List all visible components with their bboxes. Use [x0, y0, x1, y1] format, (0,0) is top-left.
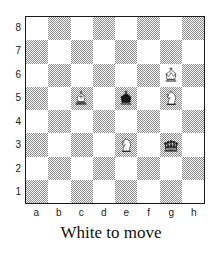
square-d3[interactable]: [93, 133, 115, 156]
square-d2[interactable]: [93, 157, 115, 180]
square-f1[interactable]: [137, 180, 159, 203]
square-b4[interactable]: [48, 110, 70, 133]
square-d6[interactable]: [93, 64, 115, 87]
square-d7[interactable]: [93, 40, 115, 63]
square-d5[interactable]: [93, 87, 115, 110]
square-f3[interactable]: [137, 133, 159, 156]
rank-labels: 8 7 6 5 4 3 2 1: [8, 16, 23, 204]
square-g8[interactable]: [160, 17, 182, 40]
file-label-b: b: [48, 205, 71, 220]
square-e1[interactable]: [115, 180, 137, 203]
square-c1[interactable]: [71, 180, 93, 203]
file-label-c: c: [70, 205, 93, 220]
square-a4[interactable]: [26, 110, 48, 133]
rank-label-5: 5: [8, 87, 23, 111]
square-b8[interactable]: [48, 17, 70, 40]
chess-diagram: 8 7 6 5 4 3 2 1 a b c d e f g h White to…: [0, 0, 222, 256]
square-e8[interactable]: [115, 17, 137, 40]
square-f6[interactable]: [137, 64, 159, 87]
rank-label-7: 7: [8, 40, 23, 64]
square-h3[interactable]: [182, 133, 204, 156]
square-g1[interactable]: [160, 180, 182, 203]
file-label-a: a: [25, 205, 48, 220]
square-g7[interactable]: [160, 40, 182, 63]
square-a7[interactable]: [26, 40, 48, 63]
rank-label-4: 4: [8, 110, 23, 134]
square-a6[interactable]: [26, 64, 48, 87]
file-label-h: h: [183, 205, 206, 220]
square-a3[interactable]: [26, 133, 48, 156]
square-c2[interactable]: [71, 157, 93, 180]
rank-label-8: 8: [8, 16, 23, 40]
file-labels: a b c d e f g h: [25, 205, 205, 220]
square-d1[interactable]: [93, 180, 115, 203]
white-king-g6[interactable]: [160, 63, 183, 87]
square-h2[interactable]: [182, 157, 204, 180]
rank-label-6: 6: [8, 63, 23, 87]
square-e4[interactable]: [115, 110, 137, 133]
square-f7[interactable]: [137, 40, 159, 63]
rank-label-1: 1: [8, 181, 23, 205]
square-f4[interactable]: [137, 110, 159, 133]
caption-text: White to move: [0, 224, 222, 243]
white-knight-e3[interactable]: [115, 134, 138, 158]
file-label-e: e: [115, 205, 138, 220]
black-king-e5[interactable]: [115, 87, 138, 111]
square-h5[interactable]: [182, 87, 204, 110]
square-h8[interactable]: [182, 17, 204, 40]
file-label-f: f: [138, 205, 161, 220]
rank-label-2: 2: [8, 157, 23, 181]
square-f5[interactable]: [137, 87, 159, 110]
square-h6[interactable]: [182, 64, 204, 87]
square-b1[interactable]: [48, 180, 70, 203]
square-c8[interactable]: [71, 17, 93, 40]
square-a2[interactable]: [26, 157, 48, 180]
square-g2[interactable]: [160, 157, 182, 180]
square-c6[interactable]: [71, 64, 93, 87]
square-e7[interactable]: [115, 40, 137, 63]
square-d4[interactable]: [93, 110, 115, 133]
square-b7[interactable]: [48, 40, 70, 63]
chess-board[interactable]: [25, 16, 205, 204]
square-g4[interactable]: [160, 110, 182, 133]
file-label-d: d: [93, 205, 116, 220]
square-e6[interactable]: [115, 64, 137, 87]
square-h4[interactable]: [182, 110, 204, 133]
square-e2[interactable]: [115, 157, 137, 180]
square-h1[interactable]: [182, 180, 204, 203]
square-a1[interactable]: [26, 180, 48, 203]
white-bishop-c5[interactable]: [70, 87, 93, 111]
square-b2[interactable]: [48, 157, 70, 180]
board-grid: [26, 17, 204, 203]
square-b3[interactable]: [48, 133, 70, 156]
black-queen-g3[interactable]: [160, 134, 183, 158]
rank-label-3: 3: [8, 134, 23, 158]
square-b6[interactable]: [48, 64, 70, 87]
square-b5[interactable]: [48, 87, 70, 110]
white-knight-g5[interactable]: [160, 87, 183, 111]
square-a8[interactable]: [26, 17, 48, 40]
square-a5[interactable]: [26, 87, 48, 110]
square-c4[interactable]: [71, 110, 93, 133]
square-f8[interactable]: [137, 17, 159, 40]
file-label-g: g: [160, 205, 183, 220]
square-c7[interactable]: [71, 40, 93, 63]
square-c3[interactable]: [71, 133, 93, 156]
square-h7[interactable]: [182, 40, 204, 63]
board-border: [25, 16, 205, 204]
square-f2[interactable]: [137, 157, 159, 180]
square-d8[interactable]: [93, 17, 115, 40]
